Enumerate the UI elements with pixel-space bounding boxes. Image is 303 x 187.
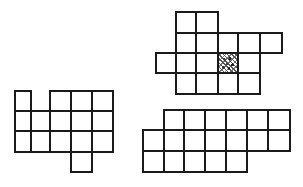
- grid-cell: [49, 110, 72, 132]
- grid-cell: [195, 52, 219, 74]
- grid-cell: [49, 130, 72, 153]
- grid-cell: [204, 109, 227, 131]
- grid-cell: [70, 110, 93, 132]
- grid-cell: [175, 11, 197, 34]
- grid-cell: [142, 150, 165, 173]
- grid-cell: [225, 109, 248, 131]
- grid-cell: [70, 151, 93, 173]
- grid-cell: [217, 72, 239, 95]
- grid-cell: [91, 90, 114, 112]
- grid-cell: [246, 109, 269, 131]
- grid-cell: [217, 32, 239, 54]
- grid-cell: [237, 72, 261, 95]
- grid-cell: [155, 52, 177, 74]
- grid-cell: [163, 129, 185, 152]
- grid-cell: [175, 72, 197, 95]
- grid-cell: [267, 129, 291, 152]
- grid-cell: [195, 32, 219, 54]
- grid-cell: [163, 150, 185, 173]
- grid-cell: [246, 129, 269, 152]
- grid-cell: [30, 130, 51, 153]
- marked-grid-cell: [217, 52, 239, 74]
- grid-cell: [204, 129, 227, 152]
- grid-cell: [30, 110, 51, 132]
- grid-cell: [91, 130, 114, 153]
- grid-cell: [91, 110, 114, 132]
- grid-cell: [195, 11, 219, 34]
- grid-cell: [237, 32, 261, 54]
- grid-cell: [49, 90, 72, 112]
- grid-cell: [204, 150, 227, 173]
- grid-cell: [175, 52, 197, 74]
- grid-cell: [237, 52, 261, 74]
- grid-cell: [225, 150, 248, 173]
- grid-cell: [183, 150, 206, 173]
- grid-cell: [70, 130, 93, 153]
- grid-cell: [225, 129, 248, 152]
- grid-cell: [259, 32, 283, 54]
- grid-cell: [14, 90, 32, 112]
- grid-cell: [175, 32, 197, 54]
- grid-cell: [195, 72, 219, 95]
- grid-cell: [163, 109, 185, 131]
- grid-cell: [267, 109, 291, 131]
- grid-cell: [70, 90, 93, 112]
- grid-cell: [142, 129, 165, 152]
- grid-cell: [183, 109, 206, 131]
- grid-cell: [183, 129, 206, 152]
